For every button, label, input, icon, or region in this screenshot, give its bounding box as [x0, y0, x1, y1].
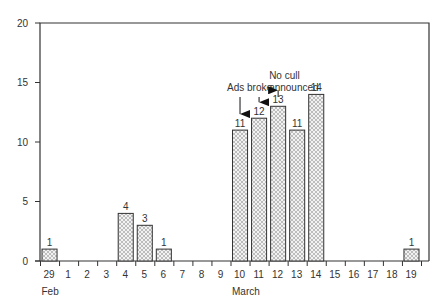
bar [156, 249, 171, 261]
x-tick-label: 15 [329, 269, 341, 280]
x-tick-label: 12 [272, 269, 284, 280]
x-tick-label: 9 [218, 269, 224, 280]
bar-value-label: 1 [409, 237, 415, 248]
bar-value-label: 3 [142, 213, 148, 224]
bar-value-label: 1 [161, 237, 167, 248]
x-tick-label: 3 [103, 269, 109, 280]
x-tick-label: 19 [405, 269, 417, 280]
x-tick-label: 17 [367, 269, 379, 280]
y-tick-label: 20 [17, 18, 29, 29]
bar [137, 225, 152, 261]
x-tick-label: 16 [348, 269, 360, 280]
x-tick-label: 2 [84, 269, 90, 280]
bar [118, 213, 133, 261]
x-tick-label: 1 [65, 269, 71, 280]
x-tick-label: 13 [291, 269, 303, 280]
bar [252, 118, 267, 261]
y-tick-label: 0 [22, 256, 28, 267]
bar-value-label: 12 [254, 106, 266, 117]
bar [309, 94, 324, 261]
y-tick-label: 10 [17, 137, 29, 148]
bar-value-label: 11 [235, 118, 246, 129]
bars: 143111121311141 [42, 82, 419, 261]
bar [271, 106, 286, 261]
x-axis: 2912345678910111213141516171819FebMarch [35, 261, 429, 297]
bar [290, 130, 305, 261]
annotation-text: No cull [269, 70, 300, 81]
bar [404, 249, 419, 261]
bar-value-label: 4 [123, 201, 129, 212]
bar [233, 130, 248, 261]
y-tick-label: 5 [22, 196, 28, 207]
bar-chart: 05101520 2912345678910111213141516171819… [0, 0, 445, 306]
y-axis: 05101520 [17, 18, 40, 267]
month-label: Feb [42, 286, 60, 297]
x-tick-label: 18 [386, 269, 398, 280]
x-tick-label: 29 [43, 269, 55, 280]
x-tick-label: 6 [161, 269, 167, 280]
annotation-text: announced [269, 82, 319, 93]
x-tick-label: 4 [122, 269, 128, 280]
bar-value-label: 1 [47, 237, 53, 248]
x-tick-label: 8 [199, 269, 205, 280]
x-tick-label: 7 [180, 269, 186, 280]
bar [42, 249, 57, 261]
x-tick-label: 10 [234, 269, 246, 280]
month-label: March [232, 286, 260, 297]
bar-value-label: 11 [292, 118, 303, 129]
x-tick-label: 5 [141, 269, 147, 280]
x-tick-label: 11 [253, 269, 264, 280]
annotation-text: Ads broke [227, 82, 272, 93]
y-tick-label: 15 [17, 77, 29, 88]
x-tick-label: 14 [310, 269, 322, 280]
